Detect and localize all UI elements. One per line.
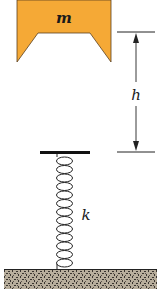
spring xyxy=(57,154,73,269)
ground xyxy=(4,269,157,289)
mass-label: m xyxy=(56,9,72,27)
mass-block: m xyxy=(17,0,111,62)
height-label: h xyxy=(131,86,141,104)
spring-mass-diagram: m h k xyxy=(0,0,157,300)
arrow-down-icon xyxy=(133,141,139,151)
height-dimension: h xyxy=(117,32,155,152)
spring-constant-label: k xyxy=(81,206,90,224)
arrow-up-icon xyxy=(133,33,139,43)
spring-platform xyxy=(40,151,90,154)
ground-fill xyxy=(4,269,157,289)
